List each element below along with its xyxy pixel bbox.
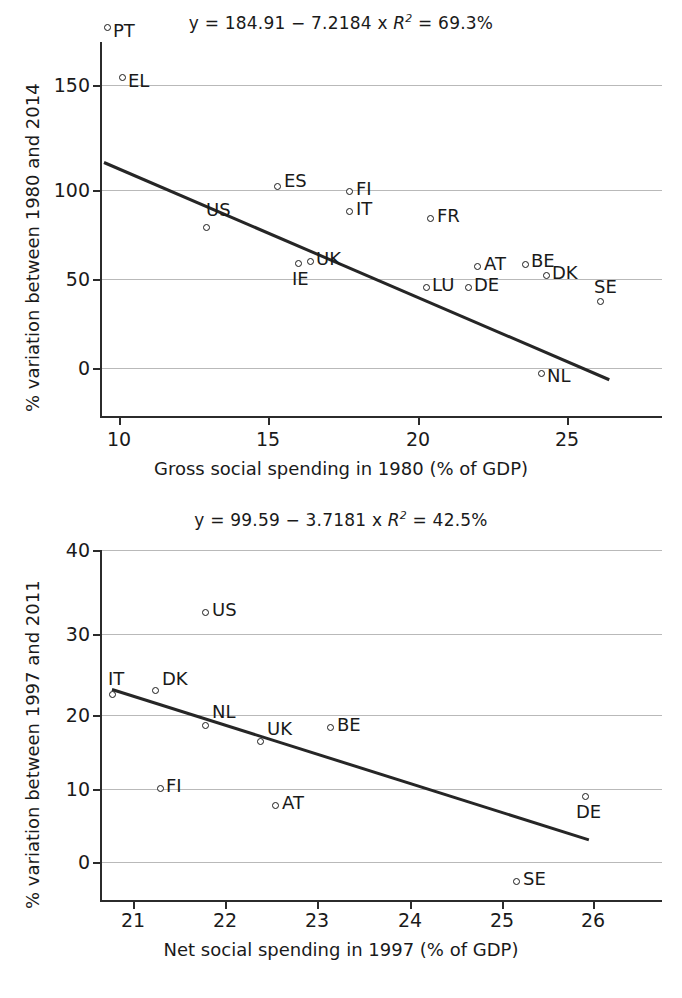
gridline-bottom-40 bbox=[100, 550, 662, 551]
xtick-label-top-10: 10 bbox=[99, 428, 139, 450]
gridline-bottom-30 bbox=[100, 634, 662, 635]
panel-gross-social-spending: y = 184.91 − 7.2184 x R2 = 69.3% % varia… bbox=[0, 0, 682, 499]
point-marker-US[interactable] bbox=[202, 609, 209, 616]
point-label-FI: FI bbox=[356, 180, 372, 198]
xtick-label-bottom-21: 21 bbox=[113, 909, 153, 931]
point-marker-SE[interactable] bbox=[513, 878, 520, 885]
point-marker-FI[interactable] bbox=[346, 188, 353, 195]
point-marker-NL[interactable] bbox=[202, 722, 209, 729]
point-label-ES: ES bbox=[284, 172, 307, 190]
point-marker-UK[interactable] bbox=[307, 258, 314, 265]
gridline-bottom-0 bbox=[100, 862, 662, 863]
point-marker-IT[interactable] bbox=[346, 208, 353, 215]
xtick-mark-top-15 bbox=[268, 418, 270, 425]
gridline-bottom-20 bbox=[100, 715, 662, 716]
point-label-US: US bbox=[206, 201, 231, 219]
ytick-mark-bottom-20 bbox=[93, 715, 100, 717]
point-label-DK: DK bbox=[162, 670, 188, 688]
point-label-SE: SE bbox=[523, 870, 546, 888]
xtick-label-top-20: 20 bbox=[398, 428, 438, 450]
point-marker-BE[interactable] bbox=[327, 724, 334, 731]
panel-bottom-r-exponent: 2 bbox=[400, 509, 407, 522]
point-label-AT: AT bbox=[282, 794, 304, 812]
panel-net-social-spending: y = 99.59 − 3.7181 x R2 = 42.5% % variat… bbox=[0, 499, 682, 998]
panel-bottom-title: y = 99.59 − 3.7181 x R2 = 42.5% bbox=[0, 509, 682, 530]
ytick-mark-top-50 bbox=[93, 279, 100, 281]
point-marker-DK[interactable] bbox=[152, 687, 159, 694]
point-marker-DK[interactable] bbox=[543, 272, 550, 279]
point-marker-SE[interactable] bbox=[597, 298, 604, 305]
point-marker-AT[interactable] bbox=[272, 802, 279, 809]
xtick-label-bottom-24: 24 bbox=[390, 909, 430, 931]
xtick-mark-top-20 bbox=[418, 418, 420, 425]
gridline-top-100 bbox=[100, 190, 662, 191]
ytick-label-top-150: 150 bbox=[30, 74, 90, 96]
point-label-FI: FI bbox=[166, 777, 182, 795]
ytick-label-bottom-0: 0 bbox=[30, 851, 90, 873]
point-marker-PT[interactable] bbox=[104, 24, 111, 31]
ytick-mark-top-0 bbox=[93, 368, 100, 370]
panel-bottom-regression-line bbox=[111, 688, 588, 841]
panel-bottom-x-axis-title: Net social spending in 1997 (% of GDP) bbox=[0, 939, 682, 960]
point-marker-UK[interactable] bbox=[257, 738, 264, 745]
xtick-label-top-15: 15 bbox=[248, 428, 288, 450]
ytick-mark-bottom-30 bbox=[93, 634, 100, 636]
ytick-mark-bottom-40 bbox=[93, 550, 100, 552]
panel-top-title: y = 184.91 − 7.2184 x R2 = 69.3% bbox=[0, 12, 682, 33]
ytick-label-bottom-10: 10 bbox=[30, 778, 90, 800]
gridline-top-150 bbox=[100, 85, 662, 86]
ytick-mark-bottom-0 bbox=[93, 862, 100, 864]
panel-bottom-x-axis bbox=[100, 900, 662, 902]
xtick-label-bottom-26: 26 bbox=[573, 909, 613, 931]
xtick-mark-bottom-26 bbox=[593, 902, 595, 909]
panel-top-equation: y = 184.91 − 7.2184 x bbox=[189, 13, 393, 33]
point-label-DE: DE bbox=[576, 803, 601, 821]
point-marker-AT[interactable] bbox=[474, 263, 481, 270]
ytick-mark-bottom-10 bbox=[93, 789, 100, 791]
point-marker-NL[interactable] bbox=[538, 370, 545, 377]
panel-top-r-symbol: R bbox=[393, 13, 405, 33]
point-marker-FR[interactable] bbox=[427, 215, 434, 222]
point-label-SE: SE bbox=[594, 278, 617, 296]
point-label-PT: PT bbox=[113, 22, 135, 40]
panel-top-plot-area: PT EL ES FI IT FR US UK IE AT BE DK bbox=[100, 42, 662, 418]
point-marker-DE[interactable] bbox=[582, 793, 589, 800]
xtick-mark-bottom-21 bbox=[133, 902, 135, 909]
ytick-label-bottom-30: 30 bbox=[30, 623, 90, 645]
point-marker-FI[interactable] bbox=[157, 785, 164, 792]
point-label-BE: BE bbox=[337, 716, 361, 734]
point-label-EL: EL bbox=[128, 72, 149, 90]
xtick-mark-bottom-22 bbox=[225, 902, 227, 909]
point-label-DE: DE bbox=[474, 276, 499, 294]
point-label-IT: IT bbox=[356, 200, 372, 218]
xtick-label-bottom-22: 22 bbox=[205, 909, 245, 931]
ytick-label-top-100: 100 bbox=[30, 179, 90, 201]
point-label-NL: NL bbox=[547, 367, 571, 385]
point-marker-DE[interactable] bbox=[465, 284, 472, 291]
point-label-US: US bbox=[212, 601, 237, 619]
point-label-DK: DK bbox=[552, 264, 578, 282]
ytick-label-bottom-20: 20 bbox=[30, 704, 90, 726]
point-label-NL: NL bbox=[212, 703, 236, 721]
point-label-AT: AT bbox=[484, 255, 506, 273]
point-marker-US[interactable] bbox=[203, 224, 210, 231]
point-label-FR: FR bbox=[437, 207, 460, 225]
panel-top-y-axis bbox=[100, 42, 102, 418]
ytick-label-top-0: 0 bbox=[30, 357, 90, 379]
xtick-mark-bottom-24 bbox=[410, 902, 412, 909]
ytick-mark-top-100 bbox=[93, 190, 100, 192]
panel-top-r2-value: = 69.3% bbox=[412, 13, 493, 33]
point-marker-LU[interactable] bbox=[423, 284, 430, 291]
xtick-label-top-25: 25 bbox=[547, 428, 587, 450]
point-marker-ES[interactable] bbox=[274, 183, 281, 190]
xtick-label-bottom-25: 25 bbox=[482, 909, 522, 931]
point-label-IT: IT bbox=[108, 670, 124, 688]
gridline-bottom-10 bbox=[100, 789, 662, 790]
xtick-mark-top-10 bbox=[119, 418, 121, 425]
point-marker-IT[interactable] bbox=[109, 691, 116, 698]
panel-bottom-plot-area: US IT DK NL UK BE FI AT DE SE bbox=[100, 550, 662, 902]
point-label-IE: IE bbox=[292, 270, 309, 288]
point-marker-IE[interactable] bbox=[295, 260, 302, 267]
point-marker-EL[interactable] bbox=[119, 74, 126, 81]
point-marker-BE[interactable] bbox=[522, 261, 529, 268]
